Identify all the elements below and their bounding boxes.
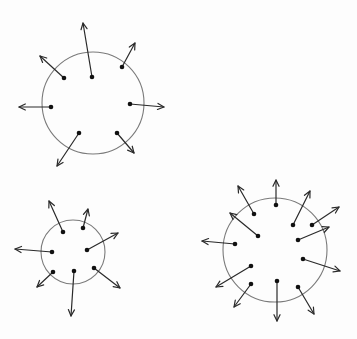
diagram-canvas [0,0,357,339]
arrow [296,227,329,243]
arrow [238,186,256,216]
arrow [301,257,340,272]
arrow [310,207,339,227]
circle-outline [223,198,327,302]
arrow [49,201,65,234]
diagram-svg [0,0,357,339]
dot [49,105,54,110]
arrow [40,56,66,80]
arrow [273,180,279,207]
arrow [57,131,81,166]
dot [128,102,133,107]
dot [275,279,280,284]
arrow [274,279,280,321]
bottom-left-circle [15,201,120,316]
arrow [296,285,314,314]
dot [77,131,82,136]
arrow [92,266,120,288]
dot [72,269,77,274]
bottom-right-circle [202,180,340,321]
arrow [37,270,55,287]
dot [296,285,301,290]
dot [85,248,90,253]
arrow [230,213,260,238]
dot [115,131,120,136]
dot [50,250,55,255]
dot [252,212,257,217]
dot [256,234,261,239]
dot [233,242,238,247]
arrow [128,102,164,110]
arrow [115,131,134,153]
dot [310,223,315,228]
dot [274,203,279,208]
dot [301,257,306,262]
dot [92,266,97,271]
dot [51,270,56,275]
dot [249,282,254,287]
dot [61,230,66,235]
dot [296,238,301,243]
arrow [202,239,237,247]
dot [90,75,95,80]
arrow [15,246,54,254]
arrow [81,209,90,230]
top-circle [19,23,164,166]
dot [62,76,67,81]
dot [81,226,86,231]
dot [291,223,296,228]
arrow [85,233,118,252]
arrow [19,104,53,110]
arrow [68,269,76,316]
dot [249,264,254,269]
dot [120,65,125,70]
arrow [81,23,94,79]
